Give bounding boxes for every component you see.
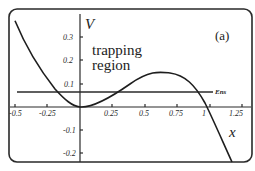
- y-tick-label: 0.1: [64, 80, 74, 89]
- x-tick-label: -0.25: [39, 109, 56, 118]
- y-tick-label: -0.2: [63, 149, 76, 158]
- x-axis-title: x: [228, 124, 236, 140]
- energy-level-label: Ens: [214, 88, 227, 96]
- x-tick-label: 1: [202, 109, 206, 118]
- x-tick-label: -0.5: [9, 109, 22, 118]
- x-tick-label: 1.25: [229, 109, 243, 118]
- y-tick-label: 0.3: [63, 33, 73, 42]
- y-axis-title: V: [85, 16, 96, 32]
- x-tick-label: 0.25: [104, 109, 118, 118]
- region-annotation: region: [92, 57, 131, 73]
- y-tick-label: 0.2: [63, 56, 73, 65]
- x-tick-label: 0.75: [169, 109, 183, 118]
- y-tick-label: -0.1: [63, 126, 76, 135]
- x-tick-label: 0.5: [139, 109, 149, 118]
- trapping-annotation: trapping: [92, 42, 142, 58]
- panel-label: (a): [215, 28, 229, 43]
- potential-chart: 0.3 0.2 0.1 -0.1 -0.2 -0.5 -0.25 0.25 0.…: [0, 0, 255, 171]
